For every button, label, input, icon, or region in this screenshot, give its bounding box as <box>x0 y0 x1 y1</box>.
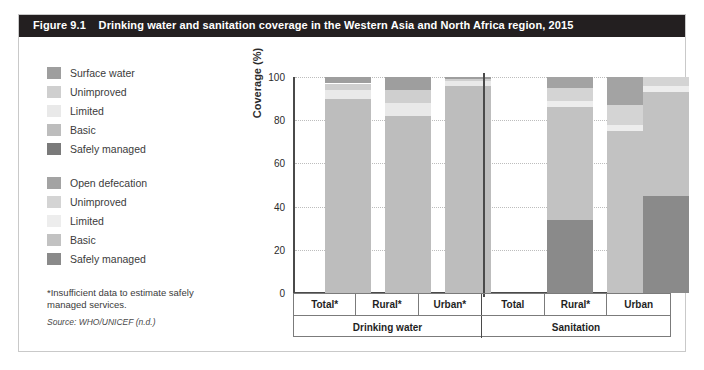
figure-title-text: Drinking water and sanitation coverage i… <box>99 19 574 31</box>
y-axis-tick-label: 100 <box>268 72 285 83</box>
legend-item-label: Safely managed <box>70 253 146 265</box>
legend-item: Safely managed <box>47 249 247 268</box>
bar-segment <box>547 107 593 219</box>
y-axis-tick-label: 60 <box>274 158 285 169</box>
stacked-bar <box>385 77 431 293</box>
y-axis-tick-label: 40 <box>274 201 285 212</box>
bar-segment <box>325 77 371 83</box>
y-axis-tick-label: 0 <box>279 288 285 299</box>
y-axis-ticks: 020406080100 <box>259 77 289 293</box>
legend-item: Basic <box>47 120 247 139</box>
bar-segment <box>547 88 593 101</box>
legend-item-label: Open defecation <box>70 177 147 189</box>
legend-swatch-icon <box>47 253 61 265</box>
bar-segment <box>385 77 431 90</box>
category-label: Rural* <box>545 294 608 315</box>
bar-segment <box>385 90 431 103</box>
legend-swatch-icon <box>47 105 61 117</box>
legend-item: Limited <box>47 211 247 230</box>
legend-swatch-icon <box>47 86 61 98</box>
category-half-sanitation: TotalRural*Urban <box>482 294 670 315</box>
legend-swatch-icon <box>47 196 61 208</box>
footnote: *Insufficient data to estimate safely ma… <box>47 287 232 311</box>
bar-segment <box>385 103 431 116</box>
legend-item-label: Surface water <box>70 67 135 79</box>
group-label-drinking-water: Drinking water <box>294 316 482 338</box>
legend-item: Basic <box>47 230 247 249</box>
category-label: Rural* <box>356 294 418 315</box>
legend-item: Unimproved <box>47 192 247 211</box>
category-label: Urban* <box>419 294 481 315</box>
bar-segment <box>325 84 371 90</box>
figure-title: Figure 9.1 Drinking water and sanitation… <box>33 19 573 31</box>
figure-title-bar: Figure 9.1 Drinking water and sanitation… <box>19 15 685 37</box>
legend-item-label: Basic <box>70 234 96 246</box>
legend-swatch-icon <box>47 177 61 189</box>
legend-swatch-icon <box>47 143 61 155</box>
stacked-bar <box>325 77 371 293</box>
bar-segment <box>643 77 689 86</box>
group-separator <box>483 73 485 297</box>
legend-item: Limited <box>47 101 247 120</box>
bar-segment <box>643 196 689 293</box>
legend-item: Unimproved <box>47 82 247 101</box>
legend-item: Open defecation <box>47 173 247 192</box>
legend-item: Safely managed <box>47 139 247 158</box>
category-half-water: Total*Rural*Urban* <box>294 294 482 315</box>
bar-segment <box>325 90 371 99</box>
legend-item-label: Safely managed <box>70 143 146 155</box>
legend-swatch-icon <box>47 215 61 227</box>
legend-swatch-icon <box>47 124 61 136</box>
legend-swatch-icon <box>47 234 61 246</box>
legend-sanitation: Open defecationUnimprovedLimitedBasicSaf… <box>47 173 247 268</box>
legend-item-label: Unimproved <box>70 86 127 98</box>
figure-number: Figure 9.1 <box>33 19 86 31</box>
legend-item-label: Unimproved <box>70 196 127 208</box>
legend-item-label: Limited <box>70 105 104 117</box>
figure-container: Figure 9.1 Drinking water and sanitation… <box>18 14 686 352</box>
legend-drinking-water: Surface waterUnimprovedLimitedBasicSafel… <box>47 63 247 158</box>
group-row: Drinking water Sanitation <box>294 316 670 338</box>
stacked-bar <box>643 77 689 293</box>
legend-item-label: Basic <box>70 124 96 136</box>
category-label: Total* <box>294 294 356 315</box>
bar-segment <box>385 116 431 293</box>
bar-segment <box>643 92 689 196</box>
legend-swatch-icon <box>47 67 61 79</box>
category-axis-table: Total*Rural*Urban* TotalRural*Urban Drin… <box>293 293 671 337</box>
bar-segment <box>547 77 593 88</box>
group-label-sanitation: Sanitation <box>482 316 670 338</box>
stacked-bar <box>547 77 593 293</box>
category-row: Total*Rural*Urban* TotalRural*Urban <box>294 294 670 316</box>
bar-segment <box>547 101 593 107</box>
legend-item-label: Limited <box>70 215 104 227</box>
bar-segment <box>325 99 371 293</box>
y-axis-tick-label: 80 <box>274 115 285 126</box>
bar-segment <box>643 86 689 92</box>
source-note: Source: WHO/UNICEF (n.d.) <box>47 317 155 327</box>
category-label: Urban <box>607 294 670 315</box>
category-label: Total <box>482 294 545 315</box>
bar-segment <box>547 220 593 293</box>
legend-item: Surface water <box>47 63 247 82</box>
y-axis-tick-label: 20 <box>274 244 285 255</box>
